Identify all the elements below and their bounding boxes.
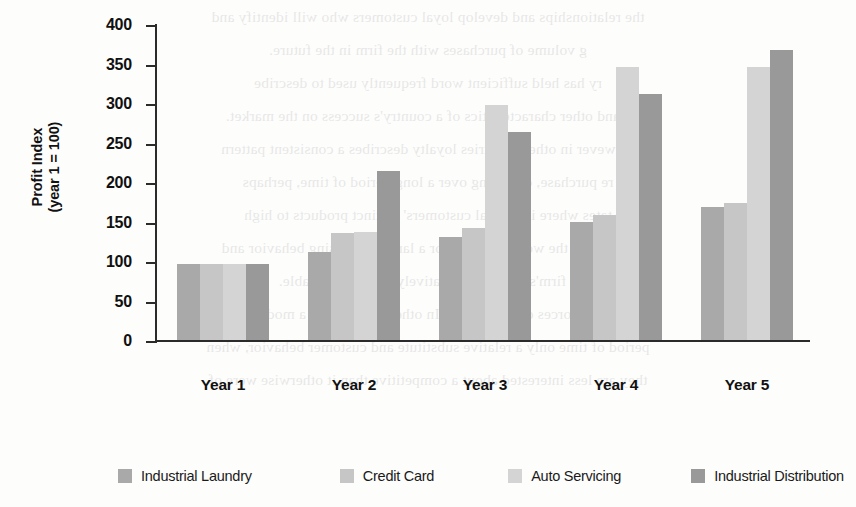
x-axis-line [155,340,810,342]
bar[interactable] [200,264,223,340]
y-axis-tick-label: 350 [106,55,132,73]
bar[interactable] [701,207,724,340]
chart-legend: Industrial LaundryCredit CardAuto Servic… [118,468,844,484]
bar-group [701,24,793,340]
y-axis-tick-label: 400 [106,16,132,34]
bar[interactable] [747,67,770,340]
y-axis-tick-label: 250 [106,134,132,152]
bar[interactable] [308,252,331,340]
x-axis-label: Year 3 [439,376,531,394]
bar[interactable] [770,50,793,340]
legend-item[interactable]: Credit Card [340,468,434,484]
legend-item[interactable]: Industrial Laundry [118,468,252,484]
y-axis-tick: 150 [146,223,157,225]
legend-label: Auto Servicing [531,468,621,484]
bar[interactable] [724,203,747,340]
y-axis-tick-label: 0 [123,332,132,350]
legend-label: Industrial Laundry [141,468,252,484]
bar[interactable] [508,132,531,340]
y-axis-title-line-1: Profit Index [29,77,46,257]
legend-label: Credit Card [363,468,434,484]
bar[interactable] [570,222,593,341]
x-axis-label: Year 4 [570,376,662,394]
plot-area: 050100150200250300350400 Year 1Year 2Yea… [155,24,810,342]
y-axis-title-line-2: (year 1 = 100) [46,77,63,257]
y-axis-tick: 50 [146,302,157,304]
legend-swatch [118,469,132,483]
x-axis-label: Year 1 [177,376,269,394]
legend-item[interactable]: Auto Servicing [508,468,621,484]
y-axis-tick: 250 [146,144,157,146]
y-axis-tick: 300 [146,104,157,106]
bar[interactable] [354,232,377,340]
y-axis-tick: 0 [146,341,157,343]
y-axis-tick-label: 50 [115,292,132,310]
y-axis-tick: 350 [146,65,157,67]
bar[interactable] [177,264,200,340]
y-axis-tick-label: 300 [106,95,132,113]
bar[interactable] [439,237,462,340]
bar-group [177,24,269,340]
bar-chart: Profit Index (year 1 = 100) 050100150200… [0,0,856,507]
x-axis-label: Year 5 [701,376,793,394]
legend-item[interactable]: Industrial Distribution [691,468,844,484]
legend-label: Industrial Distribution [714,468,844,484]
y-axis-tick: 100 [146,262,157,264]
y-axis-tick-label: 200 [106,174,132,192]
bar[interactable] [377,171,400,340]
bar-group [439,24,531,340]
bar[interactable] [616,67,639,340]
bar[interactable] [223,264,246,340]
bar[interactable] [462,228,485,340]
legend-swatch [691,469,705,483]
legend-swatch [340,469,354,483]
y-axis-tick: 400 [146,25,157,27]
bar[interactable] [593,215,616,340]
bar[interactable] [331,233,354,340]
bar-group [570,24,662,340]
bar[interactable] [639,94,662,340]
bar[interactable] [246,264,269,340]
legend-swatch [508,469,522,483]
x-axis-label: Year 2 [308,376,400,394]
y-axis-title: Profit Index (year 1 = 100) [29,77,63,257]
y-axis-tick-label: 100 [106,253,132,271]
bar-group [308,24,400,340]
y-axis-tick-label: 150 [106,213,132,231]
bar[interactable] [485,105,508,340]
y-axis-tick: 200 [146,183,157,185]
